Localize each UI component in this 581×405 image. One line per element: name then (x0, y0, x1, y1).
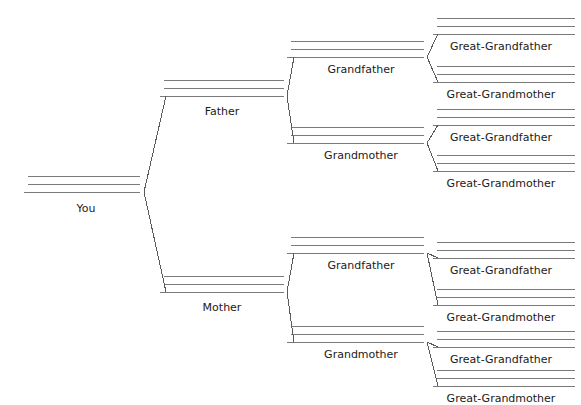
connector-branch-lower (427, 253, 438, 305)
connector-branch-lower (427, 143, 438, 171)
connector-branch-lower (144, 192, 166, 292)
connector-branch-lower (287, 292, 294, 342)
connector-branch-upper (427, 253, 438, 258)
connector-branch-lower (427, 342, 438, 386)
connector-branch-upper (427, 125, 438, 143)
connector-branch-upper (287, 57, 294, 96)
connector-branch-lower (287, 96, 294, 143)
connector-branch-upper (427, 34, 438, 57)
connector-branch-upper (427, 342, 438, 347)
generation-connectors-group (144, 34, 438, 386)
blank-write-in-lines-group (24, 18, 575, 386)
connector-branch-lower (427, 57, 438, 82)
connector-branch-upper (287, 253, 294, 292)
connector-branch-upper (144, 96, 166, 192)
